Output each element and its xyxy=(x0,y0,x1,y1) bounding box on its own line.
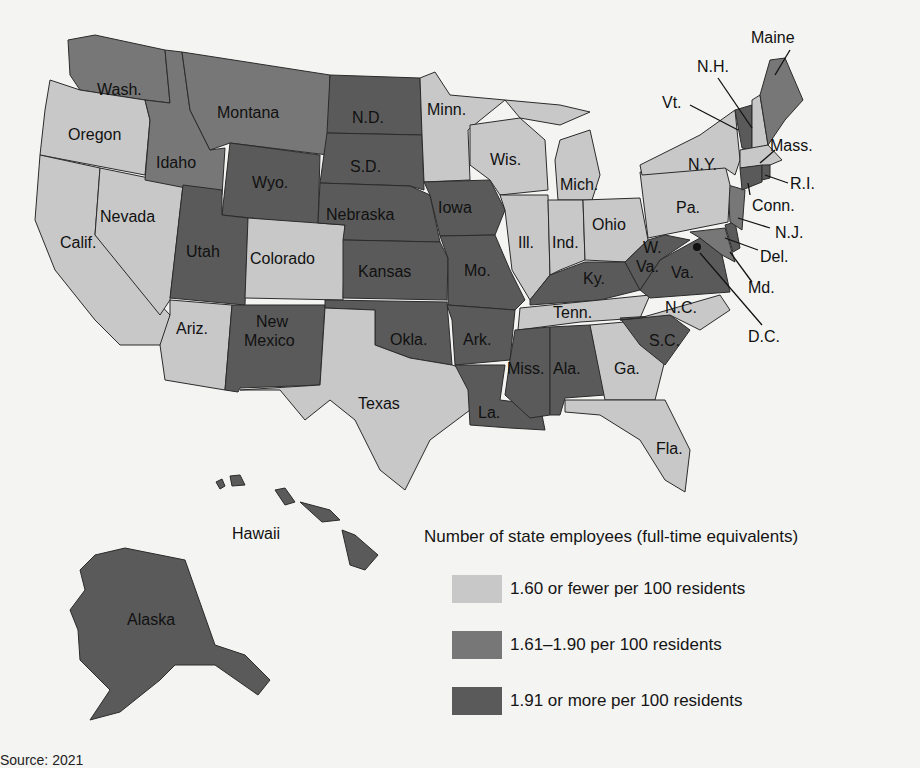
label-wis: Wis. xyxy=(490,151,521,168)
label-idaho: Idaho xyxy=(156,154,196,171)
state-hawaii-1 xyxy=(216,479,225,489)
label-montana: Montana xyxy=(217,104,279,121)
label-nevada: Nevada xyxy=(100,208,155,225)
label-iowa: Iowa xyxy=(438,199,472,216)
label-ky: Ky. xyxy=(583,270,605,287)
legend: Number of state employees (full-time equ… xyxy=(424,527,920,715)
label-ill: Ill. xyxy=(518,234,534,251)
label-kansas: Kansas xyxy=(358,263,411,280)
label-pa: Pa. xyxy=(676,199,700,216)
label-mass: Mass. xyxy=(770,137,813,154)
label-fla: Fla. xyxy=(656,440,683,457)
label-md: Md. xyxy=(748,279,775,296)
legend-item-low: 1.60 or fewer per 100 residents xyxy=(452,575,920,603)
label-mo: Mo. xyxy=(464,262,491,279)
label-nm-2: Mexico xyxy=(244,332,295,349)
state-hawaii-4 xyxy=(300,502,340,522)
label-wva-2: Va. xyxy=(636,258,659,275)
label-nh: N.H. xyxy=(697,58,729,75)
label-nm-1: New xyxy=(256,313,288,330)
label-ariz: Ariz. xyxy=(176,320,208,337)
label-okla: Okla. xyxy=(390,331,427,348)
label-ark: Ark. xyxy=(463,331,491,348)
label-la: La. xyxy=(478,404,500,421)
label-tenn: Tenn. xyxy=(553,304,592,321)
label-ind: Ind. xyxy=(552,234,579,251)
label-oregon: Oregon xyxy=(68,126,121,143)
label-vt: Vt. xyxy=(662,94,682,111)
state-ariz xyxy=(160,300,232,390)
label-ny: N.Y. xyxy=(688,156,717,173)
state-nd xyxy=(327,75,422,135)
legend-swatch-mid xyxy=(452,631,502,659)
label-nebraska: Nebraska xyxy=(326,206,395,223)
label-alaska: Alaska xyxy=(127,611,175,628)
label-del: Del. xyxy=(760,248,788,265)
source-note: Source: 2021 xyxy=(0,752,83,768)
label-wash: Wash. xyxy=(97,81,142,98)
label-ala: Ala. xyxy=(553,360,581,377)
label-ri: R.I. xyxy=(790,175,815,192)
label-ohio: Ohio xyxy=(592,216,626,233)
state-hawaii-3 xyxy=(275,488,295,505)
legend-label-high: 1.91 or more per 100 residents xyxy=(510,691,742,711)
label-mich: Mich. xyxy=(560,176,598,193)
label-sd: S.D. xyxy=(350,158,381,175)
label-nc: N.C. xyxy=(665,299,697,316)
label-minn: Minn. xyxy=(427,101,466,118)
label-conn: Conn. xyxy=(752,197,795,214)
legend-swatch-high xyxy=(452,687,502,715)
legend-label-low: 1.60 or fewer per 100 residents xyxy=(510,579,745,599)
label-wva-1: W. xyxy=(643,239,662,256)
label-maine: Maine xyxy=(751,29,795,46)
label-colorado: Colorado xyxy=(250,250,315,267)
state-maine xyxy=(760,58,803,145)
label-calif: Calif. xyxy=(60,234,96,251)
legend-swatch-low xyxy=(452,575,502,603)
label-ga: Ga. xyxy=(614,360,640,377)
dc-dot xyxy=(693,243,701,251)
leader-md xyxy=(730,252,752,282)
label-wyo: Wyo. xyxy=(252,174,288,191)
label-miss: Miss. xyxy=(507,360,544,377)
legend-label-mid: 1.61–1.90 per 100 residents xyxy=(510,635,722,655)
label-hawaii: Hawaii xyxy=(232,525,280,542)
legend-title: Number of state employees (full-time equ… xyxy=(424,527,920,547)
label-sc: S.C. xyxy=(649,332,680,349)
legend-item-mid: 1.61–1.90 per 100 residents xyxy=(452,631,920,659)
label-nd: N.D. xyxy=(352,109,384,126)
label-dc: D.C. xyxy=(748,328,780,345)
state-conn xyxy=(740,165,762,190)
label-texas: Texas xyxy=(358,395,400,412)
leader-ri xyxy=(765,175,788,183)
state-hawaii-2 xyxy=(230,475,245,486)
state-alaska xyxy=(70,548,270,720)
state-ri xyxy=(762,165,770,180)
legend-item-high: 1.91 or more per 100 residents xyxy=(452,687,920,715)
state-hawaii-5 xyxy=(342,530,378,570)
label-utah: Utah xyxy=(186,243,220,260)
label-va: Va. xyxy=(671,264,694,281)
label-nj: N.J. xyxy=(775,224,803,241)
